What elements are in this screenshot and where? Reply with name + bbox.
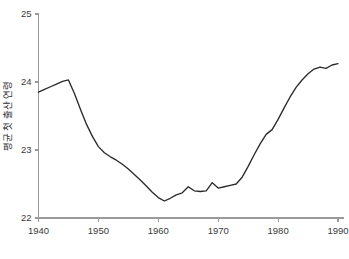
line-chart: 22232425 194019501960197019801990 평균 첫 출… [0,0,349,259]
x-tick-label: 1980 [268,225,289,236]
x-tick-label: 1990 [327,225,348,236]
x-tick-label: 1940 [28,225,49,236]
y-tick-label: 25 [21,8,32,19]
data-series-line [39,64,339,201]
y-tick-label: 22 [21,212,32,223]
x-tick-label: 1950 [88,225,109,236]
x-tick-label: 1970 [208,225,229,236]
y-axis-ticks: 22232425 [21,8,39,223]
x-axis-ticks: 194019501960197019801990 [28,218,349,236]
x-tick-label: 1960 [148,225,169,236]
y-tick-label: 23 [21,144,32,155]
y-axis-title: 평균 첫 출산 연령 [2,81,13,152]
y-tick-label: 24 [21,76,32,87]
chart-container: 22232425 194019501960197019801990 평균 첫 출… [0,0,349,259]
